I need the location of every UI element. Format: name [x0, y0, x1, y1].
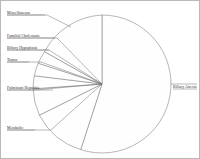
pie-label-tumor: Tumor [7, 58, 18, 62]
pie-slices [33, 15, 171, 153]
leader-line-miscellaneous [7, 15, 71, 27]
pie-label-biliary-hypoplasia: Biliary Hypoplasia [7, 46, 38, 50]
pie-chart: Miscellaneous Familial Cholestasis Bilia… [1, 1, 200, 159]
pie-label-metabolic: Metabolic [7, 126, 23, 130]
chart-page: Miscellaneous Familial Cholestasis Bilia… [0, 0, 200, 159]
pie-label-biliary-atresia: Biliary Atresia [173, 85, 197, 89]
pie-label-miscellaneous: Miscellaneous [7, 11, 31, 15]
pie-label-fulminant-hepatitis: Fulminant Hepatitis [7, 86, 39, 90]
pie-label-familial-cholestasis: Familial Cholestasis [7, 34, 40, 38]
